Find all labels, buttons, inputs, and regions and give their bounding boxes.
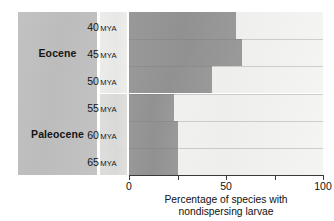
epoch-name: Paleocene	[31, 128, 84, 140]
mya-value: 60	[87, 129, 99, 141]
mya-row-50: 50MYA	[77, 66, 127, 93]
caption-line-1: Percentage of species with	[129, 194, 323, 206]
mya-unit: MYA	[100, 51, 117, 60]
x-axis-tick-75	[275, 175, 276, 180]
x-axis-tick-25	[178, 175, 179, 180]
mya-label: 55MYA	[87, 98, 117, 116]
mya-label: 60MYA	[87, 125, 117, 143]
mya-unit: MYA	[100, 24, 117, 33]
bar-row-45-mya	[129, 39, 323, 66]
mya-value: 50	[87, 75, 99, 87]
mya-row-55: 55MYA	[77, 94, 127, 121]
mya-label: 65MYA	[87, 152, 117, 170]
mya-row-60: 60MYA	[77, 121, 127, 148]
bar-row-40-mya	[129, 12, 323, 39]
mya-unit: MYA	[100, 105, 117, 114]
mya-value: 55	[87, 102, 99, 114]
row-separator	[129, 66, 323, 67]
x-axis-tick-label-0: 0	[126, 180, 132, 192]
mya-row-45: 45MYA	[77, 39, 127, 66]
axis-left-mask	[128, 12, 129, 175]
epoch-name: Eocene	[39, 47, 77, 59]
mya-unit: MYA	[100, 78, 117, 87]
mya-unit: MYA	[100, 159, 117, 168]
mya-row-40: 40MYA	[77, 12, 127, 39]
bar-segment-nondispersing	[129, 39, 242, 66]
row-separator	[129, 94, 323, 95]
caption-line-2: nondispersing larvae	[129, 206, 323, 218]
mya-value: 40	[87, 21, 99, 33]
mya-label: 45MYA	[87, 44, 117, 62]
bar-segment-nondispersing	[129, 66, 212, 93]
bar-segment-nondispersing	[129, 148, 178, 175]
bar-row-65-mya	[129, 148, 323, 175]
x-axis-caption: Percentage of species with nondispersing…	[129, 194, 323, 219]
mya-label: 50MYA	[87, 71, 117, 89]
mya-value: 45	[87, 48, 99, 60]
mya-label: 40MYA	[87, 17, 117, 35]
row-separator	[129, 121, 323, 122]
bar-chart-plot-area	[129, 12, 323, 175]
bar-segment-nondispersing	[129, 94, 174, 121]
bar-row-60-mya	[129, 121, 323, 148]
mya-unit: MYA	[100, 132, 117, 141]
x-axis-tick-label-100: 100	[314, 180, 332, 192]
bar-segment-nondispersing	[129, 12, 236, 39]
mya-panel: 40MYA45MYA50MYA55MYA60MYA65MYA	[100, 12, 127, 175]
bar-segment-nondispersing	[129, 121, 178, 148]
row-separator	[129, 39, 323, 40]
mya-row-65: 65MYA	[77, 148, 127, 175]
x-axis-tick-label-50: 50	[220, 180, 232, 192]
row-separator	[129, 148, 323, 149]
bar-row-50-mya	[129, 66, 323, 93]
bar-row-55-mya	[129, 94, 323, 121]
figure-nondispersing-larvae: EocenePaleocene 40MYA45MYA50MYA55MYA60MY…	[0, 0, 334, 221]
mya-value: 65	[87, 156, 99, 168]
